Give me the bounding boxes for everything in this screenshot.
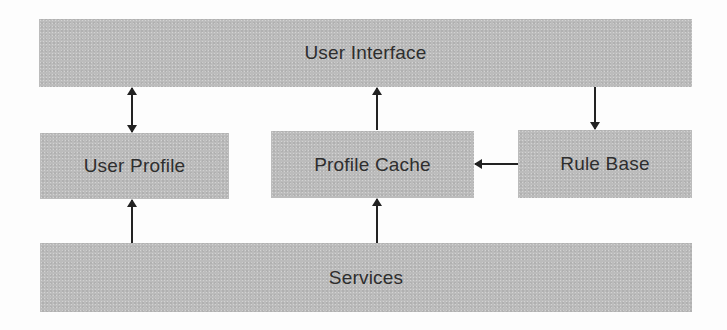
- user-profile-label: User Profile: [84, 155, 186, 177]
- rule-base-box: Rule Base: [518, 130, 692, 198]
- profile-cache-label: Profile Cache: [314, 154, 431, 176]
- user-profile-box: User Profile: [40, 133, 229, 199]
- user-interface-box: User Interface: [39, 19, 692, 87]
- user-interface-label: User Interface: [304, 42, 426, 64]
- profile-cache-box: Profile Cache: [271, 131, 474, 198]
- services-label: Services: [329, 267, 403, 289]
- rule-base-label: Rule Base: [560, 153, 649, 175]
- services-box: Services: [40, 243, 692, 312]
- diagram-canvas: User Interface User Profile Profile Cach…: [0, 0, 727, 330]
